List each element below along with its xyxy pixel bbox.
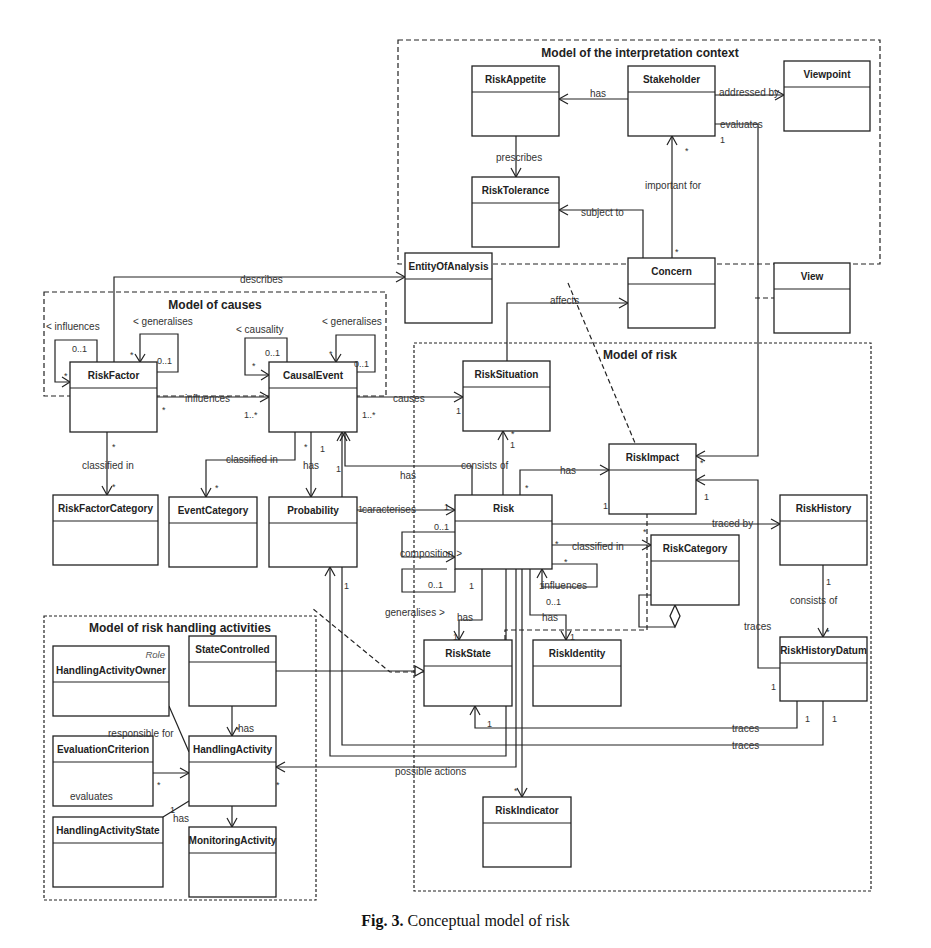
class-name: RiskImpact <box>626 452 680 463</box>
association <box>517 569 527 797</box>
association-has <box>454 569 482 640</box>
class-viewpoint[interactable]: Viewpoint <box>784 61 870 131</box>
multiplicity: 1 <box>487 719 492 729</box>
self-loop-label: < generalises <box>322 316 382 327</box>
association-label: has <box>400 470 416 481</box>
multiplicity: * <box>555 539 559 549</box>
class-risk-state[interactable]: RiskState <box>424 640 512 706</box>
package-title: Model of risk handling activities <box>89 621 271 635</box>
multiplicity: * <box>675 247 679 257</box>
class-event-category[interactable]: EventCategory <box>169 497 257 567</box>
association-label: causes <box>393 393 425 404</box>
multiplicity: * <box>511 429 515 439</box>
class-handling-activity-owner[interactable]: RoleHandlingActivityOwner <box>53 646 169 716</box>
multiplicity: * <box>564 557 568 567</box>
multiplicity: 0..1 <box>434 522 449 532</box>
class-risk-impact[interactable]: RiskImpact <box>609 444 696 514</box>
association-label: traces <box>744 621 771 632</box>
multiplicity: * <box>643 527 647 537</box>
class-handling-activity-state[interactable]: HandlingActivityState <box>53 817 163 887</box>
multiplicity: 0..1 <box>265 348 280 358</box>
association-label: has <box>542 612 558 623</box>
class-entity-of-analysis[interactable]: EntityOfAnalysis <box>405 253 492 323</box>
class-state-controlled[interactable]: StateControlled <box>189 636 276 706</box>
class-risk-indicator[interactable]: RiskIndicator <box>483 797 571 867</box>
multiplicity: 1..* <box>362 410 376 420</box>
multiplicity: 1 <box>336 464 341 474</box>
class-risk-factor[interactable]: RiskFactor <box>70 362 157 432</box>
multiplicity: 1..* <box>244 410 258 420</box>
class-name: EvaluationCriterion <box>57 744 149 755</box>
multiplicity: 1 <box>805 714 810 724</box>
class-concern[interactable]: Concern <box>628 258 715 328</box>
association-has <box>340 432 472 495</box>
class-name: Viewpoint <box>803 69 851 80</box>
association-line <box>459 569 482 640</box>
class-name: RiskHistory <box>796 503 852 514</box>
association-label: addressed by <box>719 87 779 98</box>
class-risk-appetite[interactable]: RiskAppetite <box>472 66 559 136</box>
association-important-for <box>667 136 677 258</box>
multiplicity: * <box>304 442 308 452</box>
class-name: RiskIdentity <box>549 648 606 659</box>
association-label: responsible for <box>108 728 174 739</box>
class-stakeholder[interactable]: Stakeholder <box>628 66 715 136</box>
class-name: CausalEvent <box>283 370 344 381</box>
association-label: describes <box>240 274 283 285</box>
associations <box>102 90 828 827</box>
association-label: subject to <box>581 207 624 218</box>
class-risk[interactable]: Risk <box>455 495 552 569</box>
class-monitoring-activity[interactable]: MonitoringActivity <box>189 827 277 897</box>
multiplicity: 1 <box>570 632 575 642</box>
association-label: prescribes <box>496 152 542 163</box>
association-label: traced by <box>712 518 753 529</box>
class-causal-event[interactable]: CausalEvent <box>269 362 357 432</box>
caption-text: Conceptual model of risk <box>408 912 570 929</box>
self-loop-label: < influences <box>46 321 100 332</box>
class-name: Stakeholder <box>643 74 700 85</box>
multiplicity: * <box>236 725 240 735</box>
multiplicity: 1 <box>358 504 363 514</box>
multiplicity: 1 <box>539 581 544 591</box>
caption-label: Fig. 3. <box>361 912 403 929</box>
class-name: RiskCategory <box>663 543 728 554</box>
class-risk-situation[interactable]: RiskSituation <box>463 361 550 431</box>
class-name: RiskFactorCategory <box>58 503 153 514</box>
association-evaluates <box>153 768 189 778</box>
class-name: Concern <box>651 266 692 277</box>
association-label: important for <box>645 180 702 191</box>
multiplicity: * <box>162 405 166 415</box>
class-name: RiskTolerance <box>482 185 550 196</box>
association-label: generalises > <box>385 607 445 618</box>
class-name: StateControlled <box>195 644 269 655</box>
class-risk-history-datum[interactable]: RiskHistoryDatum <box>780 637 867 701</box>
class-handling-activity[interactable]: HandlingActivity <box>189 736 276 806</box>
multiplicity: 1 <box>826 577 831 587</box>
association <box>276 666 424 676</box>
class-risk-tolerance[interactable]: RiskTolerance <box>472 177 559 247</box>
self-loop-label: < generalises <box>133 316 193 327</box>
multiplicity: * <box>276 780 280 790</box>
class-stereotype: Role <box>145 649 165 660</box>
class-name: HandlingActivityOwner <box>56 665 166 676</box>
aggregation-diamond-icon <box>670 605 680 627</box>
multiplicity: 1 <box>603 501 608 511</box>
class-risk-history[interactable]: RiskHistory <box>780 495 867 565</box>
multiplicity: * <box>685 146 689 156</box>
class-risk-category[interactable]: RiskCategory <box>651 535 739 605</box>
class-risk-factor-category[interactable]: RiskFactorCategory <box>53 495 158 565</box>
multiplicity: * <box>329 349 333 359</box>
association-label: classified in <box>572 541 624 552</box>
multiplicity: 1 <box>720 135 725 145</box>
association-label: classified in <box>226 454 278 465</box>
multiplicity: 1 <box>320 444 325 454</box>
class-name: RiskIndicator <box>495 805 558 816</box>
generalization-arrow-icon <box>415 666 424 676</box>
package-title: Model of risk <box>603 348 677 362</box>
class-view[interactable]: View <box>774 263 850 333</box>
class-probability[interactable]: Probability <box>269 497 357 567</box>
association-label: evaluates <box>70 791 113 802</box>
class-risk-identity[interactable]: RiskIdentity <box>533 640 621 706</box>
self-loop-label: < causality <box>236 324 284 335</box>
multiplicity: 1 <box>344 581 349 591</box>
